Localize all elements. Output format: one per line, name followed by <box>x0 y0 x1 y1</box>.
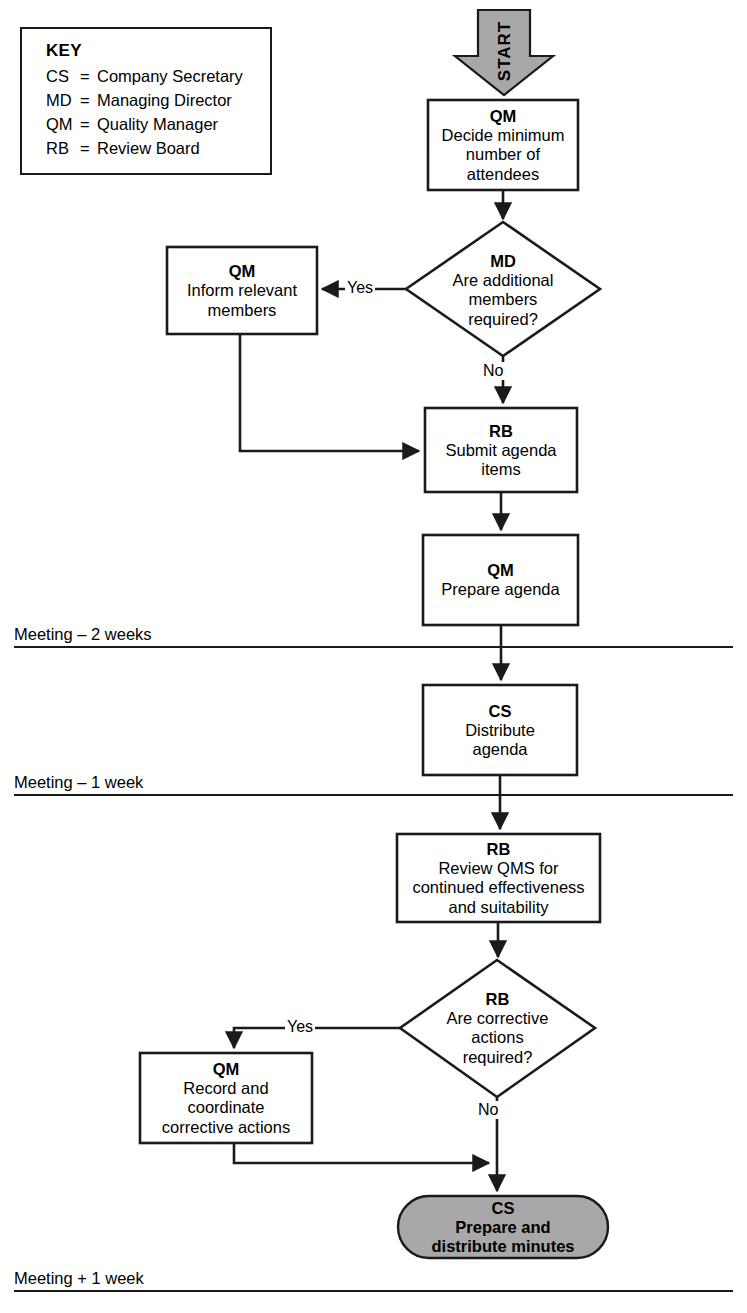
legend-meaning-rb: Review Board <box>97 139 200 157</box>
milestone-label-minus-2-weeks: Meeting – 2 weeks <box>14 625 156 644</box>
legend-equals-rb: = <box>80 136 97 160</box>
node-role-prepare-agenda: QM <box>487 560 514 580</box>
legend-title: KEY <box>46 41 270 61</box>
node-role-submit-agenda: RB <box>489 421 513 441</box>
milestone-minus-2-weeks: Meeting – 2 weeks <box>0 600 747 648</box>
node-decide-attendees: QM Decide minimum number of attendees <box>428 100 578 190</box>
start-arrow-shape <box>455 10 553 95</box>
node-role-inform-members: QM <box>229 261 256 281</box>
node-text-decide-attendees: Decide minimum number of attendees <box>442 126 565 185</box>
legend-row-cs: CS=Company Secretary <box>46 64 270 88</box>
legend-equals-qm: = <box>80 112 97 136</box>
node-role-prepare-minutes: CS <box>492 1198 515 1218</box>
node-submit-agenda: RB Submit agenda items <box>425 408 577 492</box>
flowchart-canvas <box>0 0 747 1313</box>
milestone-label-plus-1-week: Meeting + 1 week <box>14 1269 148 1288</box>
flowchart-page: KEY CS=Company Secretary MD=Managing Dir… <box>0 0 747 1313</box>
edge-label-corrective-yes: Yes <box>285 1018 315 1036</box>
node-text-record-corrective: Record and coordinate corrective actions <box>162 1079 290 1138</box>
legend-abbr-cs: CS <box>46 64 80 88</box>
node-text-inform-members: Inform relevant members <box>187 281 297 320</box>
legend-row-qm: QM=Quality Manager <box>46 112 270 136</box>
milestone-rule-plus-1-week <box>14 1290 733 1292</box>
node-role-record-corrective: QM <box>213 1059 240 1079</box>
node-text-corrective-actions: Are corrective actions required? <box>447 1009 549 1068</box>
node-text-prepare-agenda: Prepare agenda <box>441 580 559 600</box>
milestone-rule-minus-2-weeks <box>14 646 733 648</box>
node-text-submit-agenda: Submit agenda items <box>446 441 557 480</box>
node-role-decide-attendees: QM <box>490 106 517 126</box>
node-record-corrective: QM Record and coordinate corrective acti… <box>140 1053 312 1143</box>
legend-meaning-qm: Quality Manager <box>97 115 218 133</box>
legend-row-rb: RB=Review Board <box>46 136 270 160</box>
node-role-distribute-agenda: CS <box>489 701 512 721</box>
legend-abbr-md: MD <box>46 88 80 112</box>
node-inform-members: QM Inform relevant members <box>167 247 317 334</box>
legend-key-box: KEY CS=Company Secretary MD=Managing Dir… <box>20 27 272 175</box>
edge-label-members-yes: Yes <box>345 279 375 297</box>
node-text-additional-members: Are additional members required? <box>453 271 554 330</box>
legend-equals-md: = <box>80 88 97 112</box>
legend-meaning-cs: Company Secretary <box>97 67 243 85</box>
node-role-corrective-actions: RB <box>486 989 510 1009</box>
milestone-label-minus-1-week: Meeting – 1 week <box>14 773 147 792</box>
edge-label-members-no: No <box>481 362 505 380</box>
node-additional-members: MD Are additional members required? <box>406 240 600 340</box>
node-role-additional-members: MD <box>490 251 516 271</box>
legend-abbr-qm: QM <box>46 112 80 136</box>
edge-label-corrective-no: No <box>476 1101 500 1119</box>
node-corrective-actions: RB Are corrective actions required? <box>400 978 595 1078</box>
milestone-minus-1-week: Meeting – 1 week <box>0 748 747 796</box>
node-role-review-qms: RB <box>487 839 511 859</box>
node-text-review-qms: Review QMS for continued effectiveness a… <box>412 859 584 918</box>
node-review-qms: RB Review QMS for continued effectivenes… <box>397 834 600 922</box>
legend-row-md: MD=Managing Director <box>46 88 270 112</box>
legend-equals-cs: = <box>80 64 97 88</box>
legend-meaning-md: Managing Director <box>97 91 232 109</box>
milestone-rule-minus-1-week <box>14 794 733 796</box>
milestone-plus-1-week: Meeting + 1 week <box>0 1244 747 1292</box>
legend-abbr-rb: RB <box>46 136 80 160</box>
